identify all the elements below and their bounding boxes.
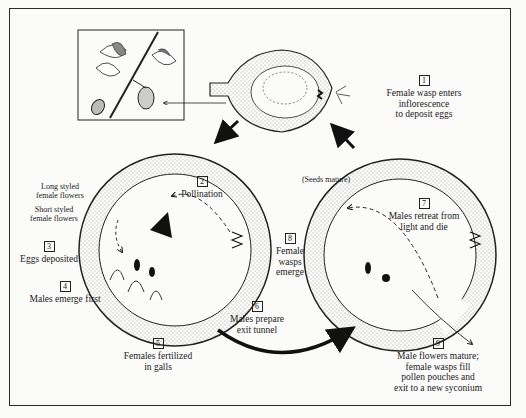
annotation-line: Short styled xyxy=(24,205,84,214)
fig-branch-inset xyxy=(78,30,184,120)
stage-5-line: in galls xyxy=(118,362,198,373)
stage-number-badge: 2 xyxy=(197,176,208,187)
short-styled-annotation: Short styled female flowers xyxy=(24,205,84,223)
stage-8-line: wasps xyxy=(272,257,308,268)
stage-9-line: female wasps fill xyxy=(388,362,488,373)
stage-number-badge: 7 xyxy=(419,198,430,209)
stage-6-line: exit tunnel xyxy=(224,325,290,336)
stage-4-label: 4 Males emerge first xyxy=(26,281,104,305)
stage-5-label: 5 Females fertilized in galls xyxy=(118,338,198,372)
stage-number-badge: 3 xyxy=(44,241,55,252)
stage-8-label: 8 Female wasps emerge xyxy=(272,233,308,278)
stage-7-label: 7 Males retreat from light and die xyxy=(384,198,464,232)
stage-8-line: Female xyxy=(272,246,308,257)
stage-3-line: Eggs deposited xyxy=(14,254,84,265)
long-styled-annotation: Long styled female flowers xyxy=(30,182,90,200)
stage-4-line: Males emerge first xyxy=(26,294,104,305)
stage-9-line: pollen pouches and xyxy=(388,372,488,383)
stage-number-badge: 1 xyxy=(419,75,430,86)
annotation-line: Long styled xyxy=(30,182,90,191)
seeds-mature-annotation: (Seeds mature) xyxy=(298,175,354,184)
stage-number-badge: 8 xyxy=(285,233,296,244)
stage-number-badge: 6 xyxy=(252,301,263,312)
stage-5-line: Females fertilized xyxy=(118,351,198,362)
stage-3-label: 3 Eggs deposited xyxy=(14,241,84,265)
syconium-emergence xyxy=(304,159,496,351)
stage-number-badge: 4 xyxy=(60,281,71,292)
syconium-entering xyxy=(210,50,350,132)
stage-number-badge: 5 xyxy=(153,338,164,349)
stage-1-line: Female wasp enters xyxy=(374,88,474,99)
stage-1-label: 1 Female wasp enters inflorescence to de… xyxy=(374,75,474,120)
stage-7-line: Males retreat from xyxy=(384,211,464,222)
stage-1-line: inflorescence xyxy=(374,99,474,110)
stage-9-label: 9 Male flowers mature; female wasps fill… xyxy=(388,338,488,393)
stage-number-badge: 9 xyxy=(433,338,444,349)
stage-6-label: 6 Males prepare exit tunnel xyxy=(224,301,290,335)
annotation-line: female flowers xyxy=(24,214,84,223)
stage-6-line: Males prepare xyxy=(224,314,290,325)
stage-2-line: Pollination xyxy=(172,189,232,200)
stage-2-label: 2 Pollination xyxy=(172,176,232,200)
stage-1-line: to deposit eggs xyxy=(374,109,474,120)
stage-7-line: light and die xyxy=(384,222,464,233)
stage-9-line: exit to a new syconium xyxy=(388,383,488,394)
annotation-line: female flowers xyxy=(30,191,90,200)
stage-9-line: Male flowers mature; xyxy=(388,351,488,362)
stage-8-line: emerge xyxy=(272,267,308,278)
